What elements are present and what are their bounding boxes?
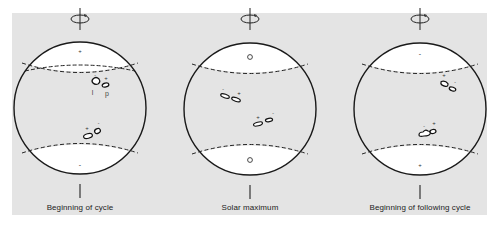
panel-beginning-of-cycle: + - - + l p + - [0, 0, 160, 220]
north-pole-polarity: + [78, 48, 82, 54]
panel-beginning-of-following-cycle: - + + - - + [340, 0, 500, 220]
rotation-icon [411, 8, 429, 30]
south-pole-polarity: + [418, 162, 422, 168]
spot-label-p: p [105, 90, 109, 98]
north-following-polarity: + [237, 90, 241, 96]
rotation-icon [241, 8, 259, 30]
caption-beginning-of-following-cycle: Beginning of following cycle [369, 203, 470, 212]
rotation-icon [71, 8, 89, 30]
north-leading-polarity: + [442, 72, 446, 78]
north-following-polarity: + [104, 75, 108, 81]
caption-solar-maximum: Solar maximum [222, 203, 279, 212]
panel-solar-maximum: - + + - [170, 0, 330, 220]
solar-cycle-diagram: + - - + l p + - [0, 0, 502, 227]
south-leading-polarity: + [85, 125, 89, 131]
caption-beginning-of-cycle: Beginning of cycle [47, 203, 114, 212]
south-following-polarity: + [432, 120, 436, 126]
south-leading-polarity: + [256, 114, 260, 120]
